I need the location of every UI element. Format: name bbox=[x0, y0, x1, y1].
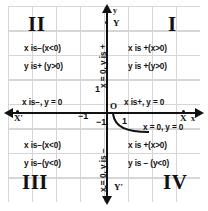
y-axis-down-arrow-icon bbox=[102, 196, 112, 205]
quadrant-four-x-rule: x is +(x>0) bbox=[128, 142, 167, 150]
x-axis-right-label-alt: x bbox=[191, 115, 195, 123]
x-axis-left-point bbox=[16, 110, 19, 113]
quadrant-three-numeral: III bbox=[22, 172, 48, 193]
quadrant-one-numeral: I bbox=[168, 14, 177, 35]
y-axis-bottom-point bbox=[105, 185, 108, 188]
positive-y-axis-rule: x = 0, y is + bbox=[100, 44, 108, 88]
y-axis-up-arrow-icon bbox=[102, 4, 112, 13]
y-axis-top-point bbox=[105, 21, 108, 24]
y-axis-bottom-label: Y′ bbox=[114, 183, 123, 192]
x-axis-right-point bbox=[182, 110, 185, 113]
x-axis-left-arrow-icon bbox=[4, 108, 13, 118]
x-axis-tick-negative-one: −1 bbox=[78, 112, 88, 121]
quadrant-one-x-rule: x is +(x>0) bbox=[128, 45, 167, 53]
x-axis-line bbox=[11, 112, 197, 114]
quadrant-one-y-rule: y is +(y>0) bbox=[128, 63, 167, 71]
x-axis-tick-positive-one: 1 bbox=[122, 117, 127, 126]
origin-pointer-arc-icon bbox=[112, 113, 150, 135]
quadrant-two-numeral: II bbox=[28, 14, 45, 35]
positive-x-axis-rule: x is+, y = 0 bbox=[124, 99, 164, 107]
y-axis-tick-positive-one: 1 bbox=[95, 85, 100, 94]
x-axis-left-label: X′ bbox=[14, 114, 23, 123]
y-axis-tick-negative-one: −1 bbox=[96, 118, 106, 127]
quadrant-three-y-rule: y is−(y<0) bbox=[24, 160, 61, 168]
quadrant-two-x-rule: x is−(x<0) bbox=[24, 45, 61, 53]
quadrant-three-x-rule: x is−(x<0) bbox=[24, 142, 61, 150]
x-axis-right-label: X bbox=[180, 114, 187, 123]
negative-x-axis-rule: x is−, y = 0 bbox=[22, 99, 62, 107]
coordinate-plane-diagram: II x is−(x<0) y is+ (y>0) I x is +(x>0) … bbox=[0, 0, 208, 211]
x-axis-right-arrow-icon bbox=[195, 108, 204, 118]
y-axis-top-label-alt: Y bbox=[113, 19, 120, 28]
quadrant-two-y-rule: y is+ (y>0) bbox=[24, 63, 63, 71]
origin-label: O bbox=[110, 102, 117, 111]
quadrant-four-y-rule: y is − (y<0) bbox=[128, 160, 169, 168]
quadrant-four-numeral: IV bbox=[163, 172, 187, 193]
y-axis-top-label: y bbox=[113, 7, 117, 15]
